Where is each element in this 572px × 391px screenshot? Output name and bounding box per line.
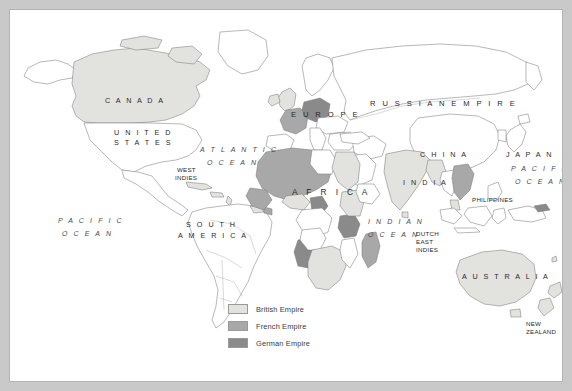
land-ceylon [402,212,408,218]
land-ireland [268,94,280,106]
legend-swatch-german-empire [228,338,248,348]
land-india [384,150,430,210]
world-map-figure: .lnd { stroke:#7d7d7d; stroke-width:0.55… [0,0,572,391]
land-new-zealand-north [548,282,562,298]
land-korea [498,130,506,142]
land-west-indies-cuba [186,182,212,190]
land-german-east-africa [338,214,360,238]
land-sumatra [440,208,462,224]
land-japan-hokkaido [518,114,530,124]
legend-label-british-empire: British Empire [256,305,304,314]
land-scandinavia [302,54,334,96]
legend-item-french-empire: French Empire [228,319,310,333]
land-great-britain [278,88,296,112]
land-celebes [492,208,506,224]
land-philippines [488,182,502,202]
map-legend: British Empire French Empire German Empi… [228,302,310,353]
land-java [454,228,480,233]
legend-item-german-empire: German Empire [228,336,310,350]
legend-item-british-empire: British Empire [228,302,310,316]
legend-label-german-empire: German Empire [256,339,310,348]
land-new-zealand-south [538,298,554,316]
land-united-states [84,123,202,172]
land-borneo [464,206,492,226]
land-alaska [24,60,76,84]
land-british-west-africa [282,194,310,210]
legend-label-french-empire: French Empire [256,322,306,331]
land-arctic-islands [120,36,162,50]
land-fiji-islands [552,256,557,262]
legend-swatch-british-empire [228,304,248,314]
land-french-indochina [452,164,474,200]
land-russian-empire [332,44,534,120]
land-madagascar [362,232,380,268]
legend-swatch-french-empire [228,321,248,331]
land-abyssinia [356,184,380,204]
land-mexico [122,170,188,216]
land-tasmania [510,309,521,317]
land-australia [456,250,536,306]
land-west-indies-lesser [226,196,232,206]
land-greenland [218,30,268,74]
land-west-indies-hispaniola [210,192,224,197]
land-japan [506,124,526,152]
land-kamchatka [526,62,542,90]
